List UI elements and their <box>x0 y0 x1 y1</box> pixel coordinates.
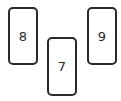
card-label: 8 <box>19 29 27 44</box>
card-8[interactable]: 8 <box>8 7 38 65</box>
card-label: 7 <box>58 59 66 74</box>
card-label: 9 <box>98 29 106 44</box>
card-7[interactable]: 7 <box>47 37 77 96</box>
card-9[interactable]: 9 <box>87 7 117 65</box>
